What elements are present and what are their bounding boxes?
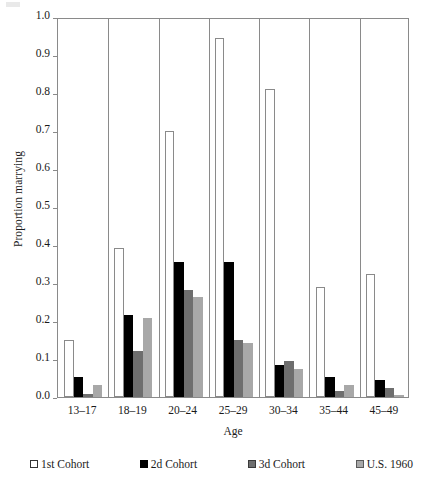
bar xyxy=(133,351,143,397)
y-axis-tick-label: 0.4 xyxy=(36,238,50,250)
bar xyxy=(114,248,124,397)
y-axis-tick-label: 0.3 xyxy=(36,276,50,288)
bar xyxy=(284,361,294,397)
bar xyxy=(394,395,404,397)
bar xyxy=(294,369,304,398)
bar-group-bars xyxy=(58,19,108,397)
bar-group xyxy=(58,19,108,397)
legend-swatch-light-gray-square xyxy=(356,460,364,468)
bar xyxy=(344,385,354,397)
plot-area xyxy=(57,18,409,398)
bar xyxy=(325,377,335,397)
y-axis-title: Proportion marrying xyxy=(12,119,24,279)
bar-group xyxy=(309,19,359,397)
y-axis-tick-label: 1.0 xyxy=(36,10,50,22)
legend-item: U.S. 1960 xyxy=(356,458,413,470)
bar xyxy=(193,297,203,397)
legend-swatch-filled-square xyxy=(140,460,148,468)
x-axis-title: Age xyxy=(57,425,409,437)
bar-group-bars xyxy=(209,19,259,397)
bar xyxy=(375,380,385,397)
bar xyxy=(335,391,345,397)
y-axis-tick-label: 0.8 xyxy=(36,86,50,98)
bar xyxy=(83,394,93,397)
bar xyxy=(143,318,153,397)
bar-chart-figure: Proportion marrying 0.00.10.20.30.40.50.… xyxy=(0,0,421,480)
bar xyxy=(385,388,395,398)
y-axis-tick-label: 0.2 xyxy=(36,314,50,326)
bar-group-bars xyxy=(159,19,209,397)
y-axis-tick-label: 0.6 xyxy=(36,162,50,174)
legend-swatch-open-square xyxy=(30,460,38,468)
plot-inner xyxy=(58,19,408,397)
y-axis-tick-label: 0.7 xyxy=(36,124,50,136)
legend-item: 2d Cohort xyxy=(140,458,197,470)
bar-group-bars xyxy=(108,19,158,397)
bar xyxy=(174,262,184,397)
x-axis-tick-label: 45–49 xyxy=(354,404,414,416)
legend-item-label: 2d Cohort xyxy=(151,458,197,470)
y-axis-tick-label: 0.0 xyxy=(36,390,50,402)
bar xyxy=(316,287,326,397)
bar xyxy=(124,315,134,397)
legend-item-label: 3d Cohort xyxy=(259,458,305,470)
legend-item-label: 1st Cohort xyxy=(41,458,89,470)
scan-artifact xyxy=(6,2,20,7)
chart-legend: 1st Cohort2d Cohort3d CohortU.S. 1960 xyxy=(30,458,413,470)
bar-group xyxy=(108,19,158,397)
bar xyxy=(74,377,84,397)
bar-group xyxy=(209,19,259,397)
legend-item: 3d Cohort xyxy=(248,458,305,470)
bar-group xyxy=(159,19,209,397)
bar xyxy=(234,340,244,397)
y-axis-tick-label: 0.5 xyxy=(36,200,50,212)
bar xyxy=(64,340,74,397)
y-axis-tick-label: 0.9 xyxy=(36,48,50,60)
bar xyxy=(184,290,194,397)
bar xyxy=(366,274,376,398)
bar xyxy=(265,89,275,397)
bar-group-bars xyxy=(360,19,410,397)
bar xyxy=(215,38,225,397)
bar xyxy=(93,385,103,397)
bar-group xyxy=(259,19,309,397)
legend-item: 1st Cohort xyxy=(30,458,89,470)
legend-item-label: U.S. 1960 xyxy=(367,458,413,470)
bar xyxy=(224,262,234,397)
legend-swatch-dark-gray-square xyxy=(248,460,256,468)
bar xyxy=(243,343,253,397)
y-axis-tick-label: 0.1 xyxy=(36,352,50,364)
bar-group-bars xyxy=(259,19,309,397)
bar-group xyxy=(360,19,410,397)
bar xyxy=(275,365,285,397)
bar xyxy=(165,131,175,397)
bar-group-bars xyxy=(309,19,359,397)
